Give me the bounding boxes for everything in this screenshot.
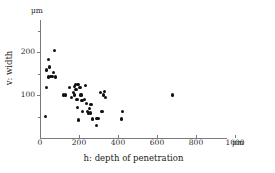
x-axis-title: h: depth of penetration	[40, 153, 227, 163]
data-point	[53, 49, 56, 52]
scatter-plot-figure: 02004006008001000 100200 µm µm h: depth …	[0, 0, 275, 173]
y-axis-line	[40, 20, 41, 139]
data-point	[64, 93, 67, 96]
x-tick-label: 200	[72, 139, 86, 147]
data-point	[121, 110, 124, 113]
x-tick-label: 800	[189, 139, 203, 147]
x-tick-label: 400	[111, 139, 125, 147]
data-point	[44, 115, 47, 118]
data-point	[100, 110, 103, 113]
data-point	[45, 68, 48, 71]
y-tick-label: 200	[14, 48, 35, 56]
data-point	[48, 65, 51, 68]
data-point	[88, 107, 91, 110]
data-point	[171, 93, 174, 96]
data-point	[89, 111, 92, 114]
data-point	[52, 71, 55, 74]
x-axis-unit-label: µm	[232, 139, 244, 147]
data-point	[75, 98, 78, 101]
data-point	[76, 106, 79, 109]
x-tick-label: 0	[38, 139, 43, 147]
data-point	[83, 98, 86, 101]
data-point	[79, 93, 82, 96]
plot-area: 02004006008001000 100200 µm µm h: depth …	[0, 0, 275, 173]
data-point	[97, 117, 100, 120]
data-point	[95, 124, 98, 127]
y-minor-tick	[38, 31, 41, 32]
data-point	[45, 86, 48, 89]
data-point	[103, 90, 106, 93]
data-point	[74, 88, 77, 91]
data-point	[68, 86, 71, 89]
data-point	[85, 102, 88, 105]
y-tick	[37, 95, 41, 96]
data-point	[89, 103, 92, 106]
y-axis-title: v: width	[4, 38, 14, 98]
data-point	[73, 93, 76, 96]
data-point	[47, 58, 50, 61]
x-tick-label: 600	[150, 139, 164, 147]
y-axis-unit-label: µm	[31, 7, 43, 15]
data-point	[120, 117, 123, 120]
data-point	[84, 84, 87, 87]
y-tick-label: 100	[14, 91, 35, 99]
data-point	[81, 110, 84, 113]
y-minor-tick	[38, 117, 41, 118]
data-point	[78, 86, 81, 89]
data-point	[91, 117, 94, 120]
data-point	[77, 118, 80, 121]
data-point	[104, 96, 107, 99]
y-minor-tick	[38, 74, 41, 75]
y-tick	[37, 52, 41, 53]
data-point	[54, 75, 57, 78]
